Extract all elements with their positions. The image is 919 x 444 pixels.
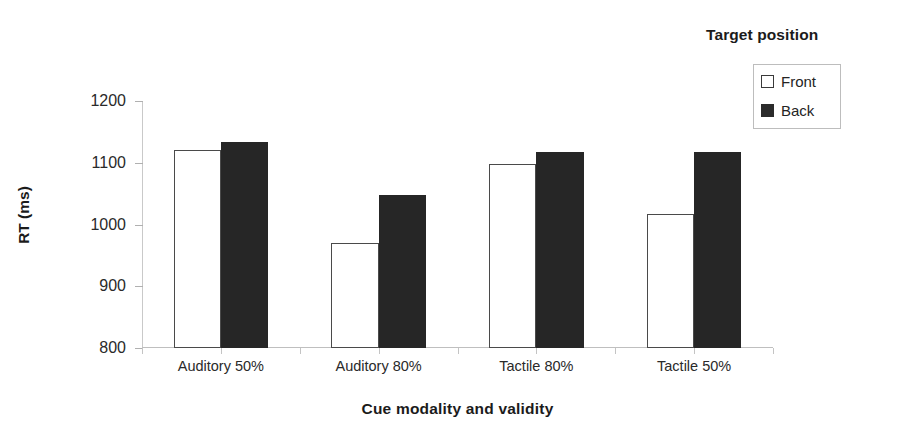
x-tick-mark (458, 348, 459, 354)
y-tick-label-text: 1000 (64, 217, 126, 233)
chart-legend: Front Back (753, 64, 841, 129)
y-tick-label: 900 (60, 278, 126, 294)
bar-back-4 (694, 152, 741, 348)
legend-entry-back: Back (761, 98, 814, 122)
y-tick-mark (135, 101, 143, 102)
bar-front-2 (331, 243, 378, 348)
y-tick-label-text: 1100 (64, 155, 126, 171)
x-axis-title: Cue modality and validity (142, 400, 773, 418)
y-tick-mark (135, 225, 143, 226)
legend-swatch-back-icon (761, 104, 774, 117)
legend-title: Target position (706, 26, 906, 44)
bar-chart-figure: Target position Front Back 8009001000110… (0, 0, 919, 444)
legend-entry-front: Front (761, 69, 816, 93)
x-tick-mark (379, 348, 380, 354)
x-tick-mark (221, 348, 222, 354)
category-label: Tactile 50% (614, 358, 774, 374)
category-label: Tactile 80% (456, 358, 616, 374)
x-tick-mark (536, 348, 537, 354)
y-tick-label: 1000 (60, 217, 126, 233)
bar-front-4 (647, 214, 694, 348)
bar-back-3 (536, 152, 583, 348)
category-label: Auditory 50% (141, 358, 301, 374)
bar-back-2 (379, 195, 426, 348)
bar-front-1 (174, 150, 221, 348)
x-tick-mark (773, 348, 774, 354)
y-axis-title: RT (ms) (15, 155, 33, 275)
y-tick-label: 1100 (60, 155, 126, 171)
y-tick-label-text: 900 (64, 278, 126, 294)
x-tick-mark (300, 348, 301, 354)
legend-label-back: Back (781, 103, 814, 118)
bar-back-1 (221, 142, 268, 348)
y-tick-mark (135, 163, 143, 164)
x-tick-mark (694, 348, 695, 354)
category-label: Auditory 80% (299, 358, 459, 374)
y-tick-label-text: 800 (64, 340, 126, 356)
x-tick-mark (142, 348, 143, 354)
y-tick-label-text: 1200 (64, 93, 126, 109)
y-tick-label: 800 (60, 340, 126, 356)
bar-front-3 (489, 164, 536, 348)
legend-label-front: Front (781, 74, 816, 89)
y-tick-mark (135, 286, 143, 287)
y-tick-label: 1200 (60, 93, 126, 109)
legend-swatch-front-icon (761, 75, 774, 88)
x-tick-mark (615, 348, 616, 354)
